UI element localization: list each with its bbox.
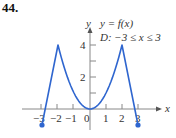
y-tick-label: 2 bbox=[80, 71, 86, 83]
x-tick-label: 2 bbox=[119, 112, 125, 124]
endpoint-dot bbox=[39, 122, 44, 127]
endpoint-dot bbox=[135, 122, 140, 127]
x-axis-arrow-icon bbox=[156, 107, 162, 112]
domain-label: D: −3 ≤ x ≤ 3 bbox=[99, 31, 161, 43]
x-axis-label: x bbox=[164, 102, 170, 114]
y-tick-label: 4 bbox=[80, 39, 86, 51]
function-graph: −3 −2 −1 0 1 2 3 4 2 y x y = f(x) D: −3 … bbox=[0, 0, 176, 138]
x-tick-label: −1 bbox=[65, 112, 77, 124]
x-tick-label: 1 bbox=[103, 112, 109, 124]
function-label: y = f(x) bbox=[99, 17, 133, 30]
x-tick-label: 0 bbox=[84, 112, 90, 124]
y-ticks bbox=[90, 45, 96, 93]
x-tick-label: −2 bbox=[50, 112, 62, 124]
y-axis-label: y bbox=[85, 17, 91, 29]
